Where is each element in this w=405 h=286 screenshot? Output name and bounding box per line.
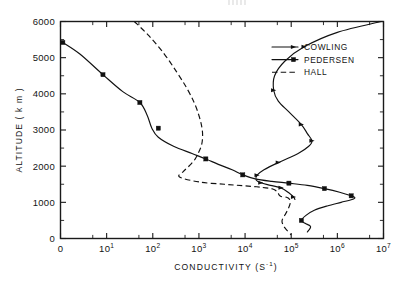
x-axis-tick-labels: 0101102103104105106107 [58,242,391,254]
x-tick-label: 104 [238,242,253,254]
series-pedersen-marker [138,100,142,104]
legend-label: HALL [304,67,327,77]
x-tick-label: 105 [284,242,299,254]
data-series-layer [61,22,381,235]
series-pedersen-marker [156,126,160,130]
y-tick-label: 1000 [33,197,55,208]
series-cowling-marker [291,195,296,199]
series-pedersen-marker [204,157,208,161]
y-tick-label: 3000 [33,124,55,135]
series-pedersen-marker [287,181,291,185]
legend-item-cowling: COWLING [272,42,348,52]
series-pedersen-marker [241,173,245,177]
x-tick-label: 103 [191,242,206,254]
legend-arrow-marker [291,45,296,49]
x-tick-label: 0 [58,243,64,254]
y-tick-label: 6000 [33,16,55,27]
y-tick-label: 2000 [33,161,55,172]
legend-item-pedersen: PEDERSEN [272,55,354,65]
conductivity-altitude-figure: 0101102103104105106107 01000200030004000… [0,0,405,286]
y-axis-title: ALTITUDE ( k m ) [14,87,24,172]
y-tick-label: 5000 [33,52,55,63]
y-tick-label: 0 [49,233,55,244]
legend-square-marker [291,58,295,62]
y-axis-tick-labels: 0100020003000400050006000 [33,16,55,244]
chart-legend: COWLINGPEDERSENHALL [272,42,354,77]
series-pedersen-marker [322,186,326,190]
x-tick-label: 102 [145,242,160,254]
x-tick-label: 107 [376,242,391,254]
legend-item-hall: HALL [272,67,327,77]
legend-label: PEDERSEN [304,55,354,65]
series-pedersen-marker [61,40,65,44]
series-cowling-marker [258,181,263,185]
x-tick-label: 101 [99,242,114,254]
y-tick-label: 4000 [33,88,55,99]
series-pedersen-marker [299,218,303,222]
x-tick-label: 106 [330,242,345,254]
series-pedersen-marker [349,194,353,198]
x-axis-title: CONDUCTIVITY (S-1) [174,260,277,271]
series-pedersen-marker [101,73,105,77]
legend-label: COWLING [304,42,348,52]
